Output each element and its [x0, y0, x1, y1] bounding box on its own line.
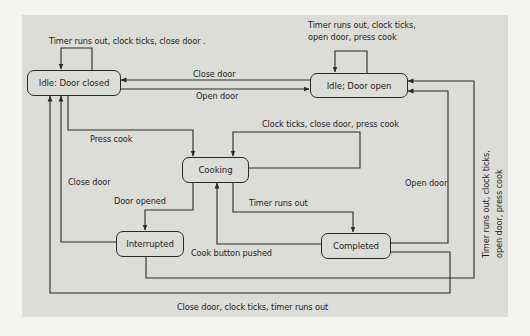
arrow-completed-open-door [390, 91, 448, 243]
arrow-idle-open-self [335, 51, 367, 73]
transition-arrows [0, 0, 530, 336]
label-completed-to-idle-closed: Close door, clock ticks, timer runs out [177, 302, 328, 313]
state-idle-door-open: Idle; Door open [310, 73, 408, 98]
label-cook-button-pushed: Cook button pushed [191, 248, 272, 259]
state-cooking: Cooking [182, 157, 249, 183]
label-idle-open-self-line1: Timer runs out, clock ticks, [308, 20, 416, 31]
label-interrupted-to-idle-open-line2: open door, press cook [493, 169, 505, 258]
label-idle-closed-self: Timer runs out, clock ticks, close door … [49, 36, 205, 47]
label-close-door: Close door [193, 69, 236, 80]
label-door-opened: Door opened [114, 196, 166, 207]
label-interrupted-to-idle-open-line1: Timer runs out, clock ticks, [480, 150, 492, 258]
label-completed-open-door: Open door [405, 178, 447, 189]
arrow-interrupted-close-door [61, 96, 116, 242]
arrow-press-cook [68, 95, 193, 156]
label-interrupted-close-door: Close door [68, 177, 111, 188]
arrow-cooking-self [233, 132, 360, 168]
label-open-door: Open door [196, 91, 238, 102]
label-cooking-self: Clock ticks, close door, press cook [262, 119, 399, 130]
label-timer-runs-out: Timer runs out [249, 198, 308, 209]
state-interrupted: Interrupted [116, 231, 184, 257]
label-press-cook: Press cook [90, 134, 132, 145]
state-idle-door-closed: Idle: Door closed [27, 70, 121, 96]
arrow-idle-closed-self [61, 48, 92, 70]
state-completed: Completed [321, 233, 391, 259]
label-idle-open-self-line2: open door, press cook [308, 32, 397, 43]
